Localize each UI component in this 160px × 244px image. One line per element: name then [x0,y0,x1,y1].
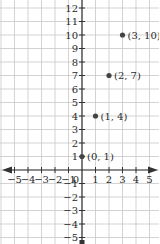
y-tick-label: 7 [72,70,78,81]
y-tick-label: 3 [72,124,78,135]
y-tick-label: 1 [72,151,78,162]
data-point-label: (2, 7) [114,70,141,81]
y-tick-label: 10 [65,30,78,41]
data-point-label: (3, 10) [128,30,160,41]
y-tick-label: 5 [72,97,78,108]
y-tick-label: 4 [72,111,78,122]
y-tick-label: 11 [65,16,78,27]
data-point-label: (1, 4) [101,111,128,122]
data-point-marker [106,73,111,78]
y-tick-label: −4 [63,219,78,230]
y-tick-label: −1 [63,178,78,189]
x-tick-label: 2 [106,174,112,185]
y-axis-bottom-arrow-icon [80,240,85,244]
coordinate-plane: −5−4−3−2−1123450 −5−4−3−2−11234567891011… [0,0,159,244]
data-point-marker [120,32,125,37]
x-tick-label: 5 [146,174,152,185]
data-point-marker [93,113,98,118]
y-tick-label: 6 [72,84,78,95]
y-tick-label: −3 [63,205,78,216]
y-tick-label: 8 [72,57,78,68]
y-tick-label: −5 [63,232,78,243]
y-tick-label: 2 [72,138,78,149]
data-point-marker [79,154,84,159]
x-tick-label: 1 [92,174,98,185]
y-tick-label: −2 [63,192,78,203]
x-tick-label: 4 [133,174,139,185]
x-axis-left-arrow-icon [2,167,12,174]
y-tick-label: 12 [65,3,78,14]
x-tick-label: 3 [119,174,125,185]
data-point-label: (0, 1) [87,151,114,162]
data-points: (0, 1)(1, 4)(2, 7)(3, 10) [79,30,159,163]
y-tick-label: 9 [72,43,78,54]
